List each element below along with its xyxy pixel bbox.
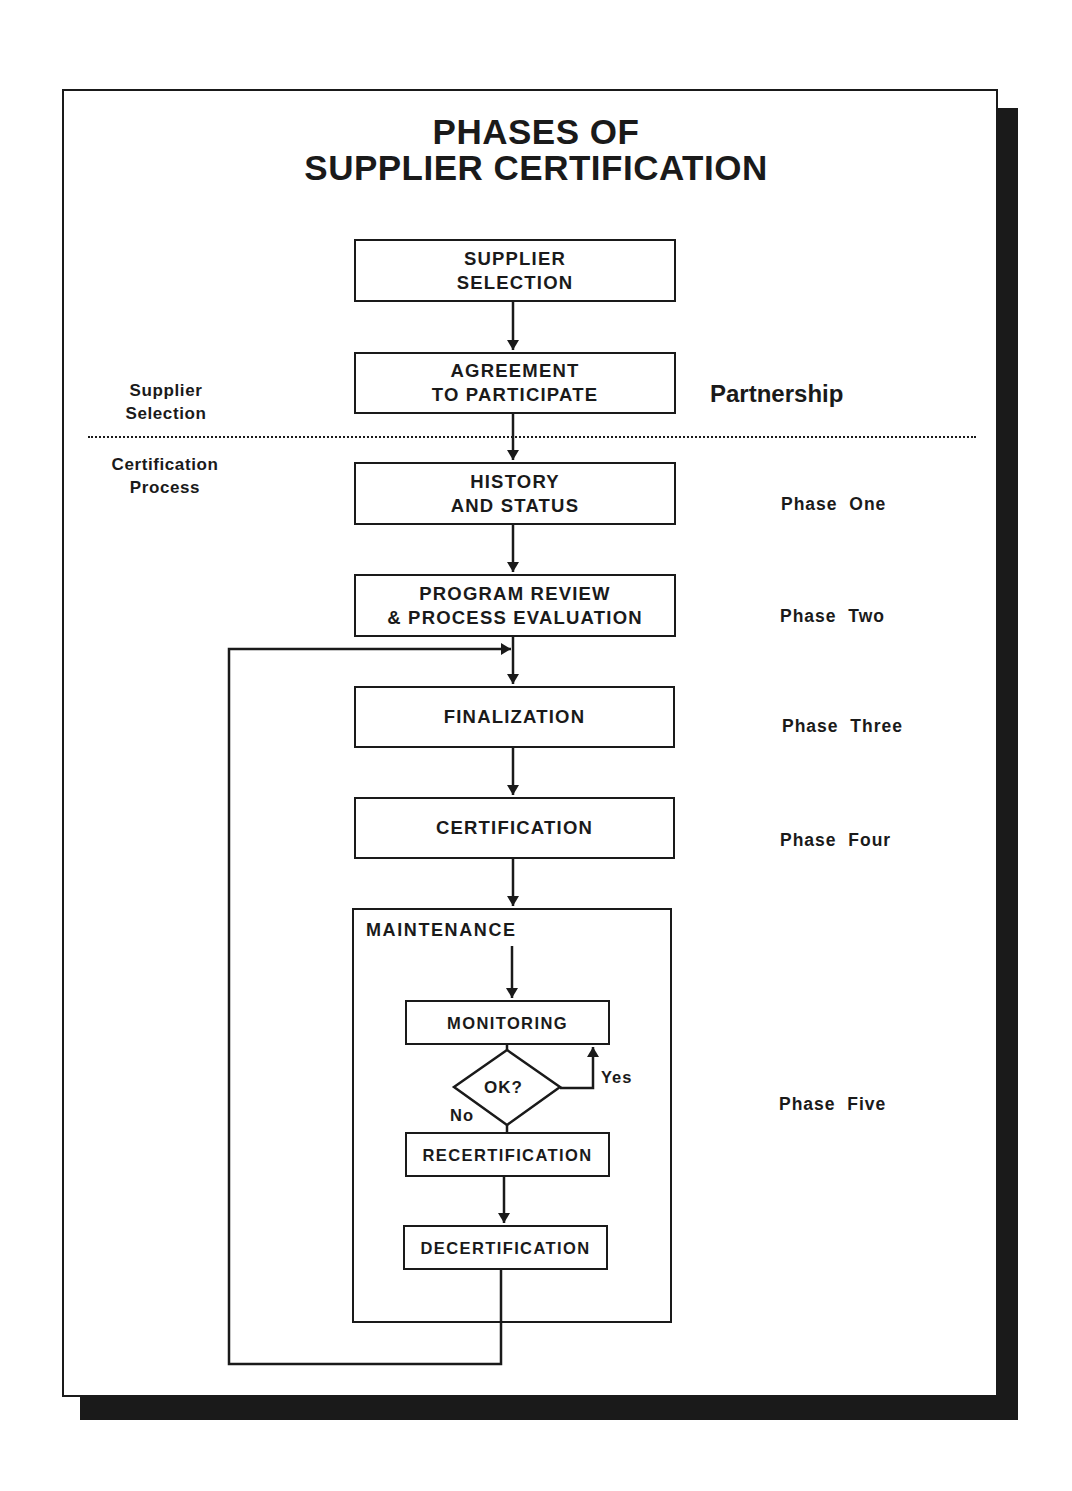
step-monitoring[interactable]: MONITORING [405,1000,610,1045]
step-label: AGREEMENT TO PARTICIPATE [432,359,599,407]
step-certification[interactable]: CERTIFICATION [354,797,675,859]
step-label: HISTORY AND STATUS [451,470,579,518]
decision-ok-label: OK? [484,1078,523,1098]
step-finalization[interactable]: FINALIZATION [354,686,675,748]
step-supplier-selection[interactable]: SUPPLIER SELECTION [354,239,676,302]
step-label: CERTIFICATION [436,816,593,840]
phase-five-label: Phase Five [779,1094,886,1115]
step-label: MONITORING [447,1011,568,1035]
phase-four-label: Phase Four [780,830,891,851]
step-recertification[interactable]: RECERTIFICATION [405,1132,610,1177]
title-line-2: SUPPLIER CERTIFICATION [0,148,1072,188]
card-shadow-bottom [80,1397,1018,1420]
no-label: No [450,1106,474,1125]
title-line-1: PHASES OF [0,112,1072,152]
step-agreement-to-participate[interactable]: AGREEMENT TO PARTICIPATE [354,352,676,414]
card-shadow-right [998,108,1018,1420]
maintenance-label: MAINTENANCE [366,920,517,941]
step-label: PROGRAM REVIEW & PROCESS EVALUATION [387,582,643,630]
section-divider [88,436,976,438]
section-label-supplier-selection: Supplier Selection [104,379,228,425]
phase-three-label: Phase Three [782,716,903,737]
partnership-label: Partnership [710,380,843,408]
step-label: FINALIZATION [444,705,585,729]
step-history-and-status[interactable]: HISTORY AND STATUS [354,462,676,525]
step-program-review[interactable]: PROGRAM REVIEW & PROCESS EVALUATION [354,574,676,637]
step-label: RECERTIFICATION [422,1143,592,1167]
step-label: DECERTIFICATION [420,1236,590,1260]
phase-two-label: Phase Two [780,606,885,627]
step-label: SUPPLIER SELECTION [457,247,574,295]
section-label-certification-process: Certification Process [92,453,238,499]
step-decertification[interactable]: DECERTIFICATION [403,1225,608,1270]
phase-one-label: Phase One [781,494,886,515]
yes-label: Yes [601,1068,632,1087]
